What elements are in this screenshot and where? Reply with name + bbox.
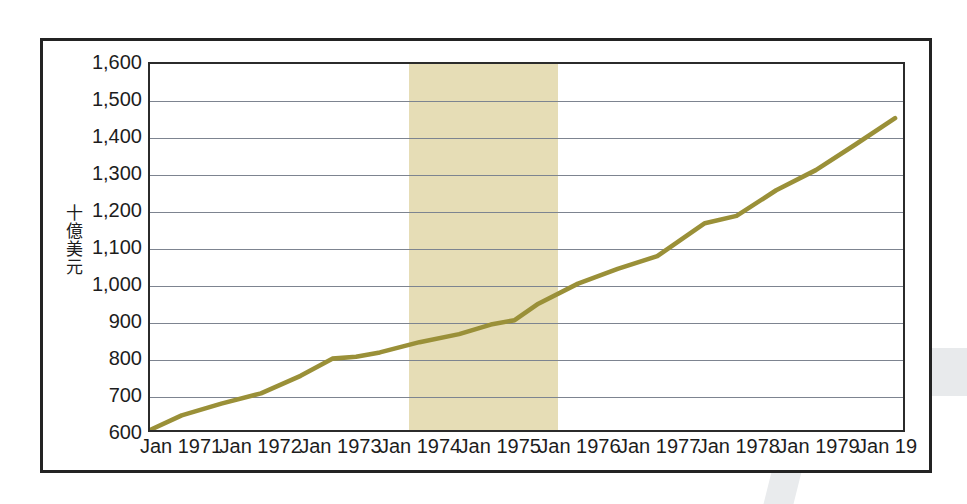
y-axis-tick-label: 1,300 — [56, 163, 142, 183]
x-axis-tick-label: Jan 1978 — [698, 436, 780, 456]
y-axis-tick-label: 1,200 — [56, 200, 142, 220]
y-axis-tick-label: 1,000 — [56, 274, 142, 294]
x-axis-tick-label: Jan 1973 — [299, 436, 381, 456]
y-axis-tick-label: 1,400 — [56, 126, 142, 146]
x-axis-tick-label: Jan 1975 — [459, 436, 541, 456]
x-axis-tick-label: Jan 1974 — [379, 436, 461, 456]
x-axis-tick-label: Jan 1971 — [140, 436, 222, 456]
y-axis-tick-label: 900 — [56, 311, 142, 331]
y-axis-tick-label: 800 — [56, 348, 142, 368]
chart-page: 十億美元 1,6001,5001,4001,3001,2001,1001,000… — [0, 0, 967, 504]
x-axis-tick-label: Jan 1977 — [618, 436, 700, 456]
y-axis-tick-label: 600 — [56, 422, 142, 442]
y-axis-tick-label: 1,100 — [56, 237, 142, 257]
x-axis-tick-label: Jan 1972 — [220, 436, 302, 456]
x-axis-tick-label: Jan 19 — [857, 436, 917, 456]
y-axis-tick-labels: 1,6001,5001,4001,3001,2001,1001,00090080… — [52, 62, 142, 432]
y-axis-tick-label: 700 — [56, 385, 142, 405]
x-axis-tick-label: Jan 1979 — [777, 436, 859, 456]
y-axis-tick-label: 1,500 — [56, 89, 142, 109]
x-axis-tick-label: Jan 1976 — [538, 436, 620, 456]
y-axis-tick-label: 1,600 — [56, 52, 142, 72]
data-line-series — [150, 64, 903, 430]
plot-area — [148, 62, 905, 432]
x-axis-tick-labels: Jan 1971Jan 1972Jan 1973Jan 1974Jan 1975… — [148, 436, 938, 466]
